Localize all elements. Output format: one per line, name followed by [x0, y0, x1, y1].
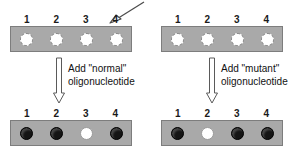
spot-cell [222, 127, 252, 140]
spot-cell [41, 33, 71, 46]
spot-cell [101, 33, 131, 46]
spot-cell [162, 33, 192, 46]
spot-cell [252, 127, 282, 140]
spot-blank [50, 33, 63, 46]
panel-mutant-oligonucleotide: 1 2 3 4 Add "mutant" oligonucleotide 1 2… [151, 0, 302, 154]
spot-label: 1 [12, 14, 42, 25]
spot-label: 4 [101, 108, 131, 119]
spot-result [171, 127, 184, 140]
spot-labels-after: 1 2 3 4 [163, 106, 281, 119]
membrane-strip-before [10, 26, 132, 52]
spot-blank [20, 33, 33, 46]
spot-blank [80, 33, 93, 46]
spot-label: 3 [71, 108, 101, 119]
spot-label: 4 [252, 108, 282, 119]
caption-line-2: oligonucleotide [68, 75, 135, 88]
spot-label: 3 [71, 14, 101, 25]
spot-label: 1 [163, 14, 193, 25]
spot-label: 2 [193, 108, 223, 119]
spot-cell [71, 127, 101, 140]
spot-blank [261, 33, 274, 46]
spot-cell [162, 127, 192, 140]
spot-blank [201, 33, 214, 46]
spot-cell [71, 33, 101, 46]
spot-result [231, 127, 244, 140]
dot-blot-figure: 1 2 3 4 Add "normal" oligonucleotide 1 2… [0, 0, 302, 154]
process-arrow-down [52, 58, 66, 104]
spot-label: 4 [252, 14, 282, 25]
spot-result [80, 127, 93, 140]
caption-line-2: oligonucleotide [221, 75, 288, 88]
membrane-strip-after [161, 120, 283, 146]
spot-label: 1 [163, 108, 193, 119]
process-caption: Add "mutant" oligonucleotide [221, 62, 288, 88]
spot-label: 2 [42, 108, 72, 119]
spot-blank [171, 33, 184, 46]
spot-label: 2 [42, 14, 72, 25]
spot-cell [222, 33, 252, 46]
spot-cell [11, 127, 41, 140]
spot-label: 3 [222, 14, 252, 25]
spot-label: 1 [12, 108, 42, 119]
spot-label: 2 [193, 14, 223, 25]
spot-cell [192, 33, 222, 46]
spot-result [201, 127, 214, 140]
spot-cell [101, 127, 131, 140]
spot-label: 4 [101, 14, 131, 25]
caption-line-1: Add "normal" [68, 62, 135, 75]
spot-result [261, 127, 274, 140]
spot-blank [110, 33, 123, 46]
spot-result [110, 127, 123, 140]
process-arrow-down [205, 58, 219, 104]
spot-cell [252, 33, 282, 46]
spot-labels-before: 1 2 3 4 [12, 12, 130, 25]
membrane-strip-before [161, 26, 283, 52]
spot-label: 3 [222, 108, 252, 119]
caption-line-1: Add "mutant" [221, 62, 288, 75]
spot-result [50, 127, 63, 140]
spot-labels-after: 1 2 3 4 [12, 106, 130, 119]
membrane-strip-after [10, 120, 132, 146]
spot-blank [231, 33, 244, 46]
process-caption: Add "normal" oligonucleotide [68, 62, 135, 88]
spot-result [20, 127, 33, 140]
spot-cell [41, 127, 71, 140]
spot-labels-before: 1 2 3 4 [163, 12, 281, 25]
spot-cell [192, 127, 222, 140]
panel-normal-oligonucleotide: 1 2 3 4 Add "normal" oligonucleotide 1 2… [0, 0, 151, 154]
spot-cell [11, 33, 41, 46]
